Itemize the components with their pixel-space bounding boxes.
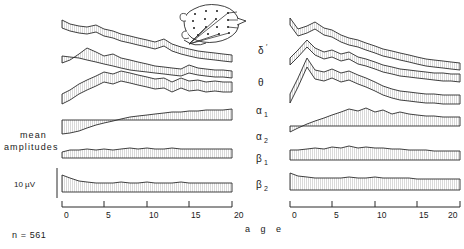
svg-text:amplitudes: amplitudes bbox=[4, 142, 59, 152]
left-xtick-15: 15 bbox=[191, 210, 201, 220]
left-xtick-0: 0 bbox=[64, 210, 69, 220]
svg-text:mean: mean bbox=[20, 130, 47, 140]
x-axis-title: a g e bbox=[245, 224, 285, 234]
svg-text:2: 2 bbox=[264, 137, 268, 144]
svg-text:α: α bbox=[256, 131, 262, 142]
right-xtick-15: 15 bbox=[419, 210, 429, 220]
svg-text:1: 1 bbox=[264, 111, 268, 118]
right-xtick-10: 10 bbox=[377, 210, 387, 220]
band-label-theta: θ bbox=[258, 77, 264, 88]
left-xtick-5: 5 bbox=[106, 210, 111, 220]
svg-text:δ: δ bbox=[258, 45, 264, 56]
svg-text:θ: θ bbox=[258, 77, 264, 88]
band-area-beta1-left bbox=[62, 148, 232, 158]
right-xtick-5: 5 bbox=[334, 210, 339, 220]
eeg-mean-amplitude-figure: δ ′ θ α 1 α 2 β 1 β 2 mean amplitudes 10… bbox=[0, 0, 464, 249]
svg-text:β: β bbox=[256, 179, 262, 190]
svg-text:1: 1 bbox=[264, 159, 268, 166]
svg-text:α: α bbox=[256, 105, 262, 116]
right-xtick-0: 0 bbox=[292, 210, 297, 220]
left-xtick-10: 10 bbox=[149, 210, 159, 220]
svg-text:2: 2 bbox=[264, 185, 268, 192]
right-xtick-20: 20 bbox=[448, 210, 458, 220]
left-xtick-20: 20 bbox=[234, 210, 244, 220]
svg-text:10 µV: 10 µV bbox=[14, 180, 36, 189]
sample-size-label: n = 561 bbox=[12, 230, 46, 240]
svg-text:β: β bbox=[256, 153, 262, 164]
